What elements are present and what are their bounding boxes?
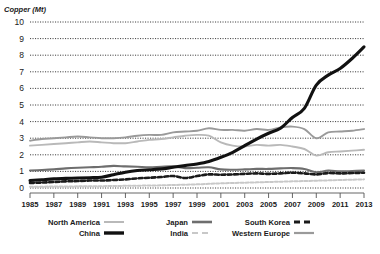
x-tick-label: 1995 — [141, 200, 159, 209]
y-tick-label: 8 — [19, 50, 24, 60]
legend-label: China — [79, 229, 101, 238]
copper-consumption-chart: Copper (Mt) 109876543210 198519871989199… — [0, 0, 380, 254]
x-tick-label: 2011 — [332, 200, 349, 209]
x-tick-label: 1987 — [45, 200, 62, 209]
y-tick-label: 2 — [19, 150, 24, 160]
y-tick-label: 3 — [19, 133, 24, 143]
chart-canvas: Copper (Mt) 109876543210 198519871989199… — [0, 0, 380, 254]
y-tick-label: 7 — [19, 67, 24, 77]
x-tick-label: 1989 — [69, 200, 86, 209]
chart-background — [0, 0, 380, 254]
x-tick-label: 2003 — [236, 200, 253, 209]
legend-label: South Korea — [245, 218, 291, 227]
y-tick-label: 6 — [19, 83, 24, 93]
legend-label: North America — [48, 218, 101, 227]
y-tick-label: 5 — [19, 100, 24, 110]
x-tick-label: 2001 — [212, 200, 230, 209]
legend-label: India — [170, 229, 188, 238]
y-tick-label: 1 — [19, 166, 24, 176]
legend-label: Western Europe — [232, 229, 290, 238]
x-tick-label: 2013 — [356, 200, 373, 209]
y-tick-label: 0 — [19, 183, 24, 193]
x-tick-label: 2009 — [308, 200, 325, 209]
x-tick-label: 1985 — [22, 200, 40, 209]
y-tick-label: 4 — [19, 117, 24, 127]
x-tick-label: 1999 — [189, 200, 206, 209]
x-tick-label: 1993 — [117, 200, 134, 209]
y-tick-label: 9 — [19, 34, 24, 44]
x-tick-label: 1991 — [93, 200, 111, 209]
x-axis-tick-labels: 1985198719891991199319951997199920012003… — [22, 200, 373, 209]
legend-label: Japan — [166, 218, 188, 227]
x-tick-label: 2005 — [260, 200, 278, 209]
y-tick-label: 10 — [15, 17, 25, 27]
y-axis-title: Copper (Mt) — [4, 5, 47, 14]
x-tick-label: 1997 — [165, 200, 182, 209]
x-tick-label: 2007 — [284, 200, 301, 209]
